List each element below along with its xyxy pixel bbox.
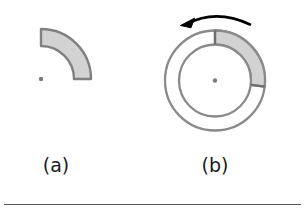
panel-a-center-dot — [39, 77, 43, 81]
panel-b-caption: (b) — [159, 156, 271, 175]
bottom-divider-rule — [4, 204, 301, 205]
panel-a-caption: (a) — [0, 156, 112, 175]
figure-illustration — [0, 0, 305, 217]
panel-b-center-dot — [213, 78, 217, 82]
